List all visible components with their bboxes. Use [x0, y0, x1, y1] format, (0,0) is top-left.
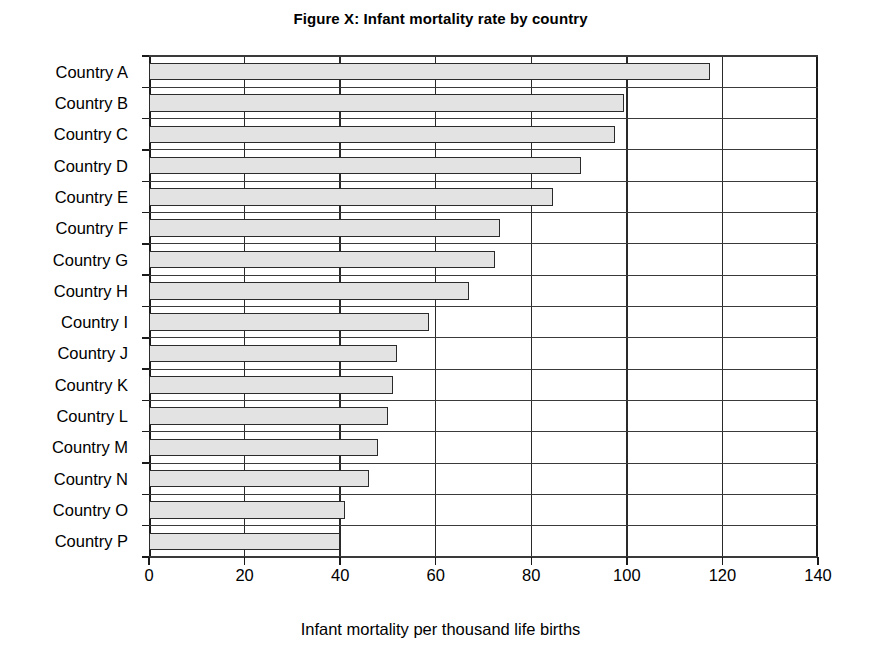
y-axis-label: Country A	[56, 64, 128, 81]
row-separator	[149, 87, 818, 88]
x-axis-tick-label: 100	[613, 566, 641, 585]
x-axis-tick-labels: 020406080100120140	[149, 566, 818, 592]
y-axis-label: Country N	[54, 471, 128, 488]
bar	[149, 533, 340, 551]
y-axis-tick	[142, 274, 149, 275]
y-axis-tick	[142, 337, 149, 338]
x-axis-tick-60	[435, 557, 436, 565]
bar	[149, 313, 429, 331]
row-separator	[149, 243, 818, 244]
row-separator	[149, 369, 818, 370]
bar	[149, 219, 500, 237]
y-axis-label: Country G	[53, 252, 128, 269]
y-axis-tick	[142, 525, 149, 526]
x-axis-tick-label: 60	[427, 566, 445, 585]
x-axis-caption: Infant mortality per thousand life birth…	[0, 620, 881, 639]
y-axis-tick	[142, 243, 149, 244]
row-separator	[149, 55, 818, 56]
y-axis-label: Country B	[55, 95, 128, 112]
x-axis-tick-label: 40	[331, 566, 349, 585]
y-axis-label: Country J	[57, 345, 128, 362]
bar	[149, 501, 345, 519]
x-axis-tick-label: 140	[804, 566, 832, 585]
row-separator	[149, 118, 818, 119]
x-axis-tick-label: 0	[144, 566, 153, 585]
y-axis-tick	[142, 462, 149, 463]
x-axis-tick-120	[722, 557, 723, 565]
x-axis-tick-20	[244, 557, 245, 565]
x-axis-tick-80	[531, 557, 532, 565]
chart-title: Figure X: Infant mortality rate by count…	[0, 10, 881, 27]
row-separator	[149, 181, 818, 182]
y-axis-tick	[142, 400, 149, 401]
y-axis-label: Country H	[54, 283, 128, 300]
bar	[149, 376, 393, 394]
y-axis-tick	[142, 306, 149, 307]
y-axis-label: Country L	[56, 408, 128, 425]
x-axis-tick-label: 20	[235, 566, 253, 585]
y-axis-label: Country E	[55, 189, 128, 206]
plot-area	[149, 56, 818, 557]
bar	[149, 188, 553, 206]
y-axis-tick	[142, 118, 149, 119]
bar	[149, 251, 495, 269]
row-separator	[149, 149, 818, 150]
bar	[149, 157, 581, 175]
row-separator	[149, 494, 818, 495]
bar	[149, 470, 369, 488]
y-axis-tick	[142, 494, 149, 495]
row-separator	[149, 306, 818, 307]
bar	[149, 63, 710, 81]
x-axis-tick-0	[148, 557, 149, 565]
y-axis-label: Country F	[56, 220, 128, 237]
bar	[149, 345, 397, 363]
y-axis-tick	[142, 149, 149, 150]
y-axis-labels: Country ACountry BCountry CCountry DCoun…	[0, 56, 140, 557]
row-separator	[149, 556, 818, 557]
y-axis-label: Country M	[52, 439, 128, 456]
x-axis-tick-40	[339, 557, 340, 565]
row-separator	[149, 337, 818, 338]
row-separator	[149, 400, 818, 401]
bar	[149, 282, 469, 300]
y-axis-label: Country D	[54, 158, 128, 175]
bar	[149, 94, 624, 112]
x-axis-tick-100	[626, 557, 627, 565]
bar	[149, 407, 388, 425]
y-axis-tick	[142, 212, 149, 213]
row-separator	[149, 212, 818, 213]
figure-container: Figure X: Infant mortality rate by count…	[0, 0, 881, 665]
bar	[149, 439, 378, 457]
y-axis-label: Country P	[55, 533, 128, 550]
bar	[149, 126, 615, 144]
row-separator	[149, 525, 818, 526]
y-axis-tick	[142, 431, 149, 432]
y-axis-label: Country O	[53, 502, 128, 519]
row-separator	[149, 431, 818, 432]
y-axis-tick	[142, 368, 149, 369]
y-axis-label: Country C	[54, 126, 128, 143]
x-axis-tick-label: 80	[522, 566, 540, 585]
y-axis-tick	[142, 87, 149, 88]
row-separator	[149, 275, 818, 276]
y-axis-tick	[142, 55, 149, 56]
row-separator	[149, 463, 818, 464]
y-axis-label: Country I	[61, 314, 128, 331]
x-axis-tick-label: 120	[709, 566, 737, 585]
x-axis-tick-140	[817, 557, 818, 565]
y-axis-tick	[142, 181, 149, 182]
y-axis-label: Country K	[55, 377, 128, 394]
